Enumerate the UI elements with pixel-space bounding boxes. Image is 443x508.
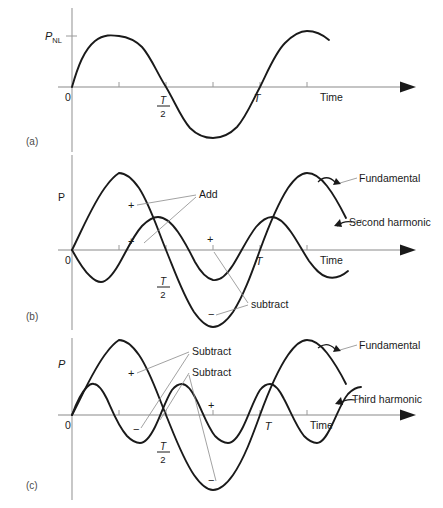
panel-c-x-axis-label: Time (310, 419, 333, 431)
panel-c-sign-minus-1: − (133, 423, 139, 435)
panel-b-x-axis-arrowhead (400, 245, 416, 256)
panel-c-subtract-upper-leader-2 (141, 354, 189, 428)
panel-b-sign-minus-1: − (208, 308, 214, 320)
panel-b-half-period-denominator: 2 (160, 289, 165, 300)
panel-c-subtract-label-lower: Subtract (192, 366, 231, 378)
panel-c-subtract-upper-leader-1 (137, 352, 189, 373)
panel-c-y-axis-label: P (58, 358, 66, 370)
panel-b-subtract-label: subtract (251, 298, 288, 310)
panel-b-period-label: T (256, 255, 264, 267)
panel-a-y-axis-label: PNL (45, 30, 62, 45)
panel-a-x-axis-label: Time (320, 91, 343, 103)
panel-a-x-axis-arrowhead (400, 82, 416, 93)
panel-b-fundamental-leader (340, 178, 357, 183)
panel-b: + + + − Add subtract Fundamental Second … (26, 155, 431, 330)
panel-c: + − + − Subtract Subtract Fundamental Th… (26, 338, 422, 500)
panel-b-sign-plus-3: + (207, 233, 213, 245)
panel-c-subtract-label-upper: Subtract (192, 345, 231, 357)
panel-b-subtract-leader-1 (214, 252, 248, 303)
panel-c-half-period-denominator: 2 (160, 454, 165, 465)
panel-b-y-axis-label: P (58, 191, 65, 203)
panel-a: PNL 0 T 2 T Time (a) (26, 8, 416, 152)
panel-b-origin-label: 0 (65, 254, 71, 266)
panel-b-add-label: Add (199, 188, 218, 200)
harmonic-decomposition-figure: PNL 0 T 2 T Time (a) + + + − Add subt (0, 0, 443, 508)
panel-c-half-period-numerator: T (160, 441, 167, 452)
panel-a-half-period-numerator: T (160, 95, 167, 106)
panel-c-third-harmonic-arrowhead (335, 397, 343, 405)
panel-c-third-harmonic-curve (72, 384, 361, 443)
panel-b-second-harmonic-arrowhead (334, 219, 342, 227)
panel-c-label: (c) (26, 480, 38, 491)
panel-b-half-period-numerator: T (160, 276, 167, 287)
panel-c-fundamental-label: Fundamental (359, 339, 420, 351)
panel-c-subtract-lower-leader-1 (160, 373, 189, 420)
panel-b-sign-plus-1: + (128, 199, 134, 211)
panel-a-label: (a) (26, 136, 38, 147)
panel-c-subtract-lower-leader-2 (189, 375, 216, 481)
panel-c-third-harmonic-label: Third harmonic (352, 393, 422, 405)
panel-c-x-axis-arrowhead (400, 410, 416, 421)
panel-a-period-label: T (254, 92, 262, 104)
panel-c-period-label: T (265, 420, 273, 432)
panel-c-origin-label: 0 (65, 419, 71, 431)
panel-c-fundamental-leader (340, 345, 357, 350)
panel-a-origin-label: 0 (65, 91, 71, 103)
panel-c-sign-minus-2: − (208, 474, 214, 486)
panel-c-sign-plus-2: + (208, 399, 214, 411)
panel-b-x-axis-label: Time (320, 254, 343, 266)
panel-b-sign-plus-2: + (128, 235, 134, 247)
panel-b-second-harmonic-label: Second harmonic (349, 216, 431, 228)
panel-b-add-leader-2 (144, 197, 196, 243)
panel-b-fundamental-label: Fundamental (359, 172, 420, 184)
panel-a-half-period-denominator: 2 (160, 108, 165, 119)
panel-c-sign-plus-1: + (128, 367, 134, 379)
panel-b-label: (b) (26, 311, 38, 322)
panel-a-nonlinear-polarization-curve (72, 31, 329, 138)
